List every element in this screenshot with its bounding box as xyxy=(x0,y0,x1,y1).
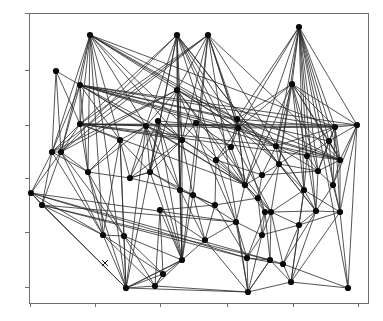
graph-node[interactable] xyxy=(235,125,241,131)
graph-node[interactable] xyxy=(267,257,273,263)
graph-node[interactable] xyxy=(337,157,343,163)
graph-node[interactable] xyxy=(202,237,208,243)
graph-node[interactable] xyxy=(177,187,183,193)
figure-container xyxy=(0,0,383,321)
graph-node[interactable] xyxy=(244,255,250,261)
graph-node[interactable] xyxy=(313,208,319,214)
graph-node[interactable] xyxy=(58,149,64,155)
graph-node[interactable] xyxy=(276,161,282,167)
graph-node[interactable] xyxy=(255,195,261,201)
graph-node[interactable] xyxy=(39,202,45,208)
graph-node[interactable] xyxy=(127,175,133,181)
graph-node[interactable] xyxy=(174,87,180,93)
graph-node[interactable] xyxy=(121,233,127,239)
network-graph-plot xyxy=(0,0,383,321)
graph-node[interactable] xyxy=(179,257,185,263)
graph-node[interactable] xyxy=(100,232,106,238)
graph-node[interactable] xyxy=(152,283,158,289)
graph-node[interactable] xyxy=(345,285,351,291)
graph-node[interactable] xyxy=(273,143,279,149)
graph-node[interactable] xyxy=(213,157,219,163)
graph-node[interactable] xyxy=(155,118,161,124)
graph-node[interactable] xyxy=(87,32,93,38)
graph-node[interactable] xyxy=(205,32,211,38)
graph-node[interactable] xyxy=(301,187,307,193)
graph-node[interactable] xyxy=(77,121,83,127)
graph-node[interactable] xyxy=(259,232,265,238)
graph-node[interactable] xyxy=(262,209,268,215)
graph-node[interactable] xyxy=(304,153,310,159)
graph-node[interactable] xyxy=(193,120,199,126)
graph-node[interactable] xyxy=(53,68,59,74)
graph-node[interactable] xyxy=(332,124,338,130)
graph-node[interactable] xyxy=(330,182,336,188)
graph-node[interactable] xyxy=(157,207,163,213)
graph-node[interactable] xyxy=(234,116,240,122)
graph-node[interactable] xyxy=(242,182,248,188)
graph-node[interactable] xyxy=(174,32,180,38)
graph-node[interactable] xyxy=(212,202,218,208)
graph-node[interactable] xyxy=(28,190,34,196)
graph-node[interactable] xyxy=(160,271,166,277)
graph-node[interactable] xyxy=(179,137,185,143)
graph-node[interactable] xyxy=(228,144,234,150)
graph-node[interactable] xyxy=(190,192,196,198)
graph-node[interactable] xyxy=(326,138,332,144)
graph-node[interactable] xyxy=(354,122,360,128)
graph-node[interactable] xyxy=(147,169,153,175)
graph-node[interactable] xyxy=(85,169,91,175)
graph-node[interactable] xyxy=(77,82,83,88)
graph-node[interactable] xyxy=(123,285,129,291)
graph-node[interactable] xyxy=(315,168,321,174)
graph-node[interactable] xyxy=(245,289,251,295)
graph-node[interactable] xyxy=(337,209,343,215)
graph-node[interactable] xyxy=(296,24,302,30)
graph-node[interactable] xyxy=(259,172,265,178)
graph-node[interactable] xyxy=(280,261,286,267)
graph-node[interactable] xyxy=(143,123,149,129)
graph-node[interactable] xyxy=(289,81,295,87)
graph-node[interactable] xyxy=(268,209,274,215)
graph-node[interactable] xyxy=(233,219,239,225)
graph-node[interactable] xyxy=(117,137,123,143)
graph-node[interactable] xyxy=(288,279,294,285)
graph-node[interactable] xyxy=(49,149,55,155)
graph-node[interactable] xyxy=(296,222,302,228)
